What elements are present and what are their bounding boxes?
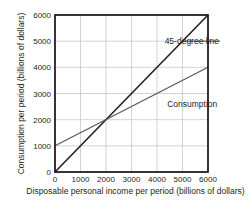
x-axis-label: Disposable personal income per period (b… [26,186,244,196]
y-axis-ticks: 0100020003000400050006000 [33,11,51,177]
x-tick-label: 0 [53,175,58,184]
x-tick-label: 5000 [174,175,192,184]
x-tick-label: 6000 [199,175,217,184]
consumption-function-chart: 0100020003000400050006000 01000200030004… [0,0,252,207]
x-tick-label: 1000 [72,175,90,184]
annotations: 45-degree lineConsumption [165,36,220,109]
y-tick-label: 6000 [33,11,51,20]
y-tick-label: 0 [47,168,52,177]
y-tick-label: 4000 [33,63,51,72]
annotation-label: Consumption [167,99,217,109]
y-axis-label: Consumption per period (billions of doll… [16,13,26,175]
y-tick-label: 1000 [33,142,51,151]
x-tick-label: 2000 [97,175,115,184]
y-tick-label: 5000 [33,37,51,46]
x-tick-label: 3000 [123,175,141,184]
y-tick-label: 3000 [33,90,51,99]
x-tick-label: 4000 [148,175,166,184]
y-tick-label: 2000 [33,116,51,125]
x-axis-ticks: 0100020003000400050006000 [53,175,218,184]
